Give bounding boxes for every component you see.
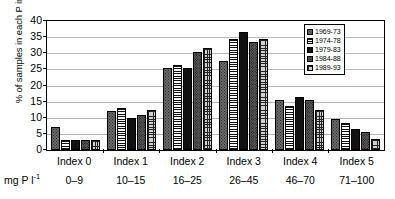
units-exponent: -1 [34,172,41,181]
bar[interactable] [81,140,90,150]
bar[interactable] [315,110,324,150]
bar[interactable] [295,97,304,150]
y-axis-tick-mark [43,149,46,150]
y-axis-tick-mark [43,52,46,53]
x-axis-category-label: Index 0 [46,155,103,175]
legend-label: 1979-83 [315,46,341,53]
x-axis-labels: Index 0Index 1Index 2Index 3Index 4Index… [46,155,385,175]
y-axis-tick-mark [43,68,46,69]
x-axis-category-label: Index 4 [272,155,329,175]
bar[interactable] [203,48,212,150]
x-axis-range-labels: 0–910–1516–2526–4546–7071–100 [46,174,385,194]
legend-item[interactable]: 1989-93 [307,63,341,72]
y-axis-tick-mark [43,36,46,37]
x-axis-range-label: 26–45 [216,174,273,194]
legend[interactable]: 1969-731974-781979-831984-881989-93 [304,24,345,75]
bar[interactable] [183,68,192,150]
bar[interactable] [193,52,202,150]
bar[interactable] [147,110,156,150]
bar[interactable] [275,100,284,150]
x-axis-range-label: 71–100 [329,174,386,194]
y-axis-tick-label: 25 [14,63,42,73]
x-axis-category-label: Index 1 [103,155,160,175]
bar[interactable] [361,132,370,150]
bar[interactable] [249,42,258,150]
legend-label: 1989-93 [315,64,341,71]
bar[interactable] [285,106,294,150]
legend-swatch-icon [307,47,313,53]
x-axis-range-label: 46–70 [272,174,329,194]
bar[interactable] [163,68,172,150]
y-axis-tick-label: 30 [14,47,42,57]
bar-group [103,21,159,150]
category-tick [272,149,273,153]
bar[interactable] [127,118,136,150]
units-caption: mg P l-1 [4,172,40,186]
bar[interactable] [259,39,268,150]
bar[interactable] [137,115,146,150]
legend-label: 1974-78 [315,37,341,44]
y-axis-tick-label: 15 [14,96,42,106]
bar[interactable] [71,140,80,150]
bar[interactable] [61,140,70,150]
legend-swatch-icon [307,38,313,44]
bar[interactable] [305,100,314,150]
bar-group [47,21,103,150]
bar[interactable] [91,140,100,150]
bar[interactable] [229,39,238,150]
bar[interactable] [351,129,360,150]
legend-item[interactable]: 1979-83 [307,45,341,54]
y-axis-tick-mark [43,117,46,118]
bar[interactable] [341,123,350,150]
bar[interactable] [331,119,340,150]
x-axis-category-label: Index 2 [159,155,216,175]
y-axis-tick-label: 35 [14,31,42,41]
x-axis-range-label: 0–9 [46,174,103,194]
bar[interactable] [173,65,182,150]
y-axis-tick-label: 0 [14,144,42,154]
category-tick [216,149,217,153]
legend-label: 1969-73 [315,28,341,35]
category-tick [103,149,104,153]
legend-swatch-icon [307,65,313,71]
x-axis-range-label: 10–15 [103,174,160,194]
x-axis-range-label: 16–25 [159,174,216,194]
bar[interactable] [51,127,60,150]
y-axis-tick-label: 5 [14,128,42,138]
bar[interactable] [117,108,126,150]
y-axis-tick-label: 20 [14,80,42,90]
category-tick [159,149,160,153]
bar[interactable] [239,32,248,150]
y-axis-tick-label: 10 [14,112,42,122]
category-tick [328,149,329,153]
y-axis-tick-mark [43,20,46,21]
bar-group [216,21,272,150]
legend-item[interactable]: 1984-88 [307,54,341,63]
legend-swatch-icon [307,29,313,35]
legend-item[interactable]: 1974-78 [307,36,341,45]
y-axis-tick-label: 40 [14,15,42,25]
y-axis-tick-mark [43,133,46,134]
bar-group [159,21,215,150]
x-axis-category-label: Index 3 [216,155,273,175]
legend-label: 1984-88 [315,55,341,62]
legend-swatch-icon [307,56,313,62]
bar[interactable] [371,139,380,150]
y-axis-tick-mark [43,85,46,86]
legend-item[interactable]: 1969-73 [307,27,341,36]
x-axis-category-label: Index 5 [329,155,386,175]
bar-chart: % of samples in each P index mg P l-1 05… [0,0,395,199]
bar[interactable] [107,111,116,150]
units-text: mg P l [4,174,34,186]
y-axis-tick-mark [43,101,46,102]
bar[interactable] [219,61,228,150]
